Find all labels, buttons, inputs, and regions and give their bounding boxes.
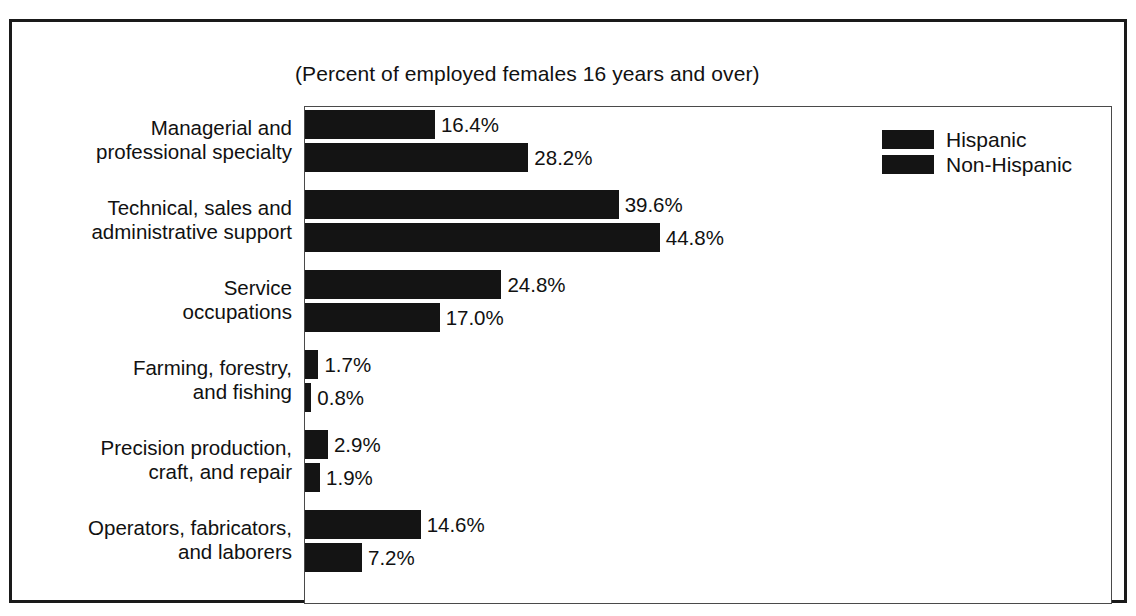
category-label-line: Service bbox=[183, 276, 292, 301]
bar[interactable] bbox=[305, 223, 660, 252]
category-label: Managerial andprofessional specialty bbox=[96, 116, 292, 165]
category-label-line: administrative support bbox=[91, 220, 292, 245]
bar-row: 1.7% bbox=[305, 350, 1111, 379]
bar-value-label: 1.9% bbox=[320, 466, 373, 490]
bar-value-label: 17.0% bbox=[440, 306, 504, 330]
chart-legend: HispanicNon-Hispanic bbox=[882, 127, 1112, 177]
legend-item[interactable]: Hispanic bbox=[882, 127, 1112, 152]
bar[interactable] bbox=[305, 190, 619, 219]
category-label: Precision production,craft, and repair bbox=[101, 436, 292, 485]
bar-row: 44.8% bbox=[305, 223, 1111, 252]
bars-layer: 16.4%28.2%39.6%44.8%24.8%17.0%1.7%0.8%2.… bbox=[305, 107, 1111, 603]
bar-value-label: 16.4% bbox=[435, 113, 499, 137]
legend-swatch bbox=[882, 155, 934, 174]
category-label: Operators, fabricators,and laborers bbox=[88, 516, 292, 565]
bar-group: 24.8%17.0% bbox=[305, 270, 1111, 332]
bar-value-label: 0.8% bbox=[311, 386, 364, 410]
bar-row: 17.0% bbox=[305, 303, 1111, 332]
legend-swatch bbox=[882, 130, 934, 149]
bar-value-label: 44.8% bbox=[660, 226, 724, 250]
legend-label: Hispanic bbox=[946, 128, 1027, 152]
bar-group: 14.6%7.2% bbox=[305, 510, 1111, 572]
figure-frame: (Percent of employed females 16 years an… bbox=[9, 19, 1127, 603]
bar-row: 1.9% bbox=[305, 463, 1111, 492]
bar-value-label: 2.9% bbox=[328, 433, 381, 457]
bar-group: 39.6%44.8% bbox=[305, 190, 1111, 252]
bar[interactable] bbox=[305, 110, 435, 139]
category-axis: Managerial andprofessional specialtyTech… bbox=[32, 106, 298, 604]
legend-label: Non-Hispanic bbox=[946, 153, 1072, 177]
bar[interactable] bbox=[305, 463, 320, 492]
bar-row: 7.2% bbox=[305, 543, 1111, 572]
category-label-line: and laborers bbox=[88, 540, 292, 565]
bar[interactable] bbox=[305, 430, 328, 459]
chart-subtitle: (Percent of employed females 16 years an… bbox=[295, 61, 760, 87]
bar[interactable] bbox=[305, 303, 440, 332]
plot-area: 16.4%28.2%39.6%44.8%24.8%17.0%1.7%0.8%2.… bbox=[304, 106, 1112, 604]
bar-value-label: 24.8% bbox=[501, 273, 565, 297]
bar[interactable] bbox=[305, 270, 501, 299]
category-label-line: Technical, sales and bbox=[91, 196, 292, 221]
bar-row: 39.6% bbox=[305, 190, 1111, 219]
bar-row: 24.8% bbox=[305, 270, 1111, 299]
category-label-line: Operators, fabricators, bbox=[88, 516, 292, 541]
bar[interactable] bbox=[305, 350, 318, 379]
bar[interactable] bbox=[305, 143, 528, 172]
bar[interactable] bbox=[305, 543, 362, 572]
category-label-line: craft, and repair bbox=[101, 460, 292, 485]
bar-value-label: 39.6% bbox=[619, 193, 683, 217]
bar-row: 0.8% bbox=[305, 383, 1111, 412]
category-label-line: Managerial and bbox=[96, 116, 292, 141]
category-label: Technical, sales andadministrative suppo… bbox=[91, 196, 292, 245]
category-label-line: occupations bbox=[183, 300, 292, 325]
bar-value-label: 1.7% bbox=[318, 353, 371, 377]
bar-value-label: 7.2% bbox=[362, 546, 415, 570]
category-label-line: Precision production, bbox=[101, 436, 292, 461]
bar[interactable] bbox=[305, 510, 421, 539]
category-label: Serviceoccupations bbox=[183, 276, 292, 325]
legend-item[interactable]: Non-Hispanic bbox=[882, 152, 1112, 177]
bar-value-label: 28.2% bbox=[528, 146, 592, 170]
bar-group: 2.9%1.9% bbox=[305, 430, 1111, 492]
category-label-line: and fishing bbox=[133, 380, 292, 405]
category-label-line: professional specialty bbox=[96, 140, 292, 165]
bar-row: 2.9% bbox=[305, 430, 1111, 459]
bar-value-label: 14.6% bbox=[421, 513, 485, 537]
bar-row: 14.6% bbox=[305, 510, 1111, 539]
category-label-line: Farming, forestry, bbox=[133, 356, 292, 381]
category-label: Farming, forestry,and fishing bbox=[133, 356, 292, 405]
bar-group: 1.7%0.8% bbox=[305, 350, 1111, 412]
